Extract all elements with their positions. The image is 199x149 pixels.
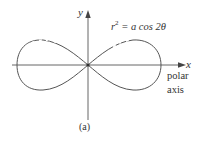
x-axis-arrow-icon: [178, 62, 186, 67]
equation-rhs: = a cos 2θ: [119, 21, 166, 32]
polar-axis-label-line2: axis: [167, 85, 184, 96]
figure-caption: (a): [79, 122, 90, 132]
lemniscate-figure: y x r2 = a cos 2θ polar axis (a): [0, 0, 199, 149]
y-axis-arrow-icon: [85, 10, 90, 18]
origin-point: [86, 63, 89, 66]
y-axis-label: y: [78, 7, 83, 18]
equation-label: r2 = a cos 2θ: [111, 20, 166, 33]
x-axis-label: x: [186, 59, 191, 70]
polar-axis-label-line1: polar: [167, 71, 189, 82]
